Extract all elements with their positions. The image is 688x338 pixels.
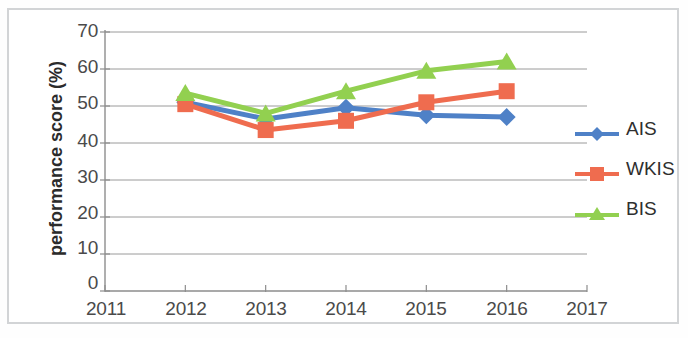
- legend-label-ais: AIS: [626, 118, 657, 140]
- chart-figure: performance score (%) 70 60 50 40 30 20 …: [0, 0, 688, 338]
- gridlines: [105, 32, 587, 254]
- chart-legend: AIS WKIS BIS: [574, 116, 680, 236]
- legend-item-wkis[interactable]: WKIS: [574, 156, 680, 196]
- legend-marker-diamond-icon: [574, 126, 620, 142]
- data-point-wkis-2014[interactable]: [338, 113, 354, 129]
- legend-item-bis[interactable]: BIS: [574, 196, 680, 236]
- series-layer: [175, 53, 516, 138]
- legend-label-wkis: WKIS: [626, 158, 675, 180]
- legend-label-bis: BIS: [626, 198, 657, 220]
- data-point-wkis-2013[interactable]: [258, 122, 274, 138]
- data-point-wkis-2016[interactable]: [499, 83, 515, 99]
- legend-marker-triangle-icon: [574, 206, 620, 222]
- legend-item-ais[interactable]: AIS: [574, 116, 680, 156]
- legend-marker-square-icon: [574, 166, 620, 182]
- data-point-wkis-2015[interactable]: [418, 94, 434, 110]
- data-point-ais-2016[interactable]: [498, 108, 516, 126]
